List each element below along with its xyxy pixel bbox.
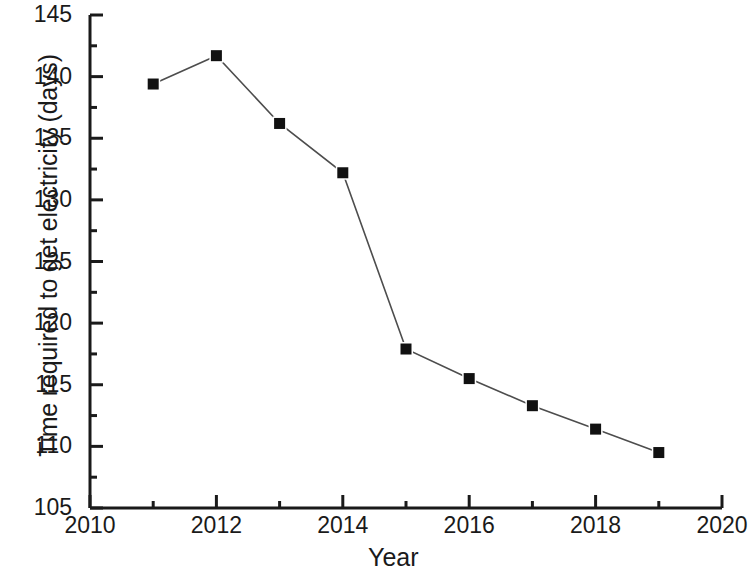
axis-ticks (90, 15, 722, 508)
data-series-markers (146, 49, 666, 460)
data-point-marker[interactable] (337, 167, 348, 178)
data-point-marker[interactable] (401, 344, 412, 355)
data-point-marker[interactable] (590, 424, 601, 435)
data-point-marker[interactable] (527, 400, 538, 411)
data-point-marker[interactable] (274, 118, 285, 129)
series-polyline (153, 56, 659, 453)
data-point-marker[interactable] (653, 447, 664, 458)
data-series-line (153, 56, 659, 453)
data-point-marker[interactable] (211, 50, 222, 61)
plot-area (0, 0, 748, 578)
axis-spines (90, 15, 722, 508)
chart-figure: Time required to get electricity (days) … (0, 0, 748, 578)
data-point-marker[interactable] (148, 79, 159, 90)
data-point-marker[interactable] (464, 373, 475, 384)
